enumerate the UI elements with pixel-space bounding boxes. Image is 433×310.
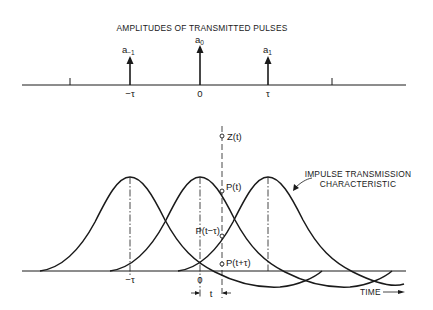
offset-dimension: t — [191, 288, 231, 299]
tick-label-zero: 0 — [197, 274, 202, 285]
arrowhead-icon — [265, 56, 272, 64]
tick-label-tau: τ — [266, 88, 270, 99]
pulse-a-minus-1: a−1 −τ — [122, 44, 135, 99]
arrowhead-icon — [222, 291, 227, 295]
top-panel-title: AMPLITUDES OF TRANSMITTED PULSES — [117, 23, 288, 33]
curve-label-line1: IMPULSE TRANSMISSION — [305, 169, 412, 179]
pulse-label: a1 — [263, 44, 272, 56]
arrowhead-icon — [197, 45, 204, 53]
tick-label-zero: 0 — [197, 88, 202, 99]
label-z-t: Z(t) — [227, 131, 242, 142]
tick-label-minus-tau: −τ — [125, 274, 135, 285]
top-panel: AMPLITUDES OF TRANSMITTED PULSES a−1 −τ … — [22, 23, 406, 99]
label-p-t: P(t) — [226, 181, 241, 192]
pointer-arrow-icon — [295, 178, 312, 188]
arrowhead-icon — [195, 291, 200, 295]
pulse-label: a−1 — [122, 44, 135, 56]
bottom-panel: Z(t) P(t) P(t−τ) P(t+τ) −τ 0 t IMPULSE T… — [22, 126, 411, 299]
pulse-transmission-diagram: AMPLITUDES OF TRANSMITTED PULSES a−1 −τ … — [0, 0, 433, 310]
offset-label: t — [210, 288, 213, 299]
pulse-a-0: a0 0 — [195, 34, 204, 99]
arrowhead-icon — [398, 290, 405, 294]
sample-point-z — [220, 134, 224, 138]
curve-label-line2: CHARACTERISTIC — [320, 179, 396, 189]
sample-point-p-t-plus-tau — [220, 262, 224, 266]
arrowhead-icon — [127, 56, 134, 64]
time-axis-label: TIME — [360, 287, 381, 297]
tick-label-minus-tau: −τ — [125, 88, 135, 99]
sample-point-p-t-minus-tau — [220, 234, 224, 238]
label-p-t-plus-tau: P(t+τ) — [226, 257, 251, 268]
label-p-t-minus-tau: P(t−τ) — [195, 225, 220, 236]
pulse-label: a0 — [195, 34, 204, 46]
pulse-a-1: a1 τ — [263, 44, 272, 99]
sample-point-p-t — [220, 189, 224, 193]
